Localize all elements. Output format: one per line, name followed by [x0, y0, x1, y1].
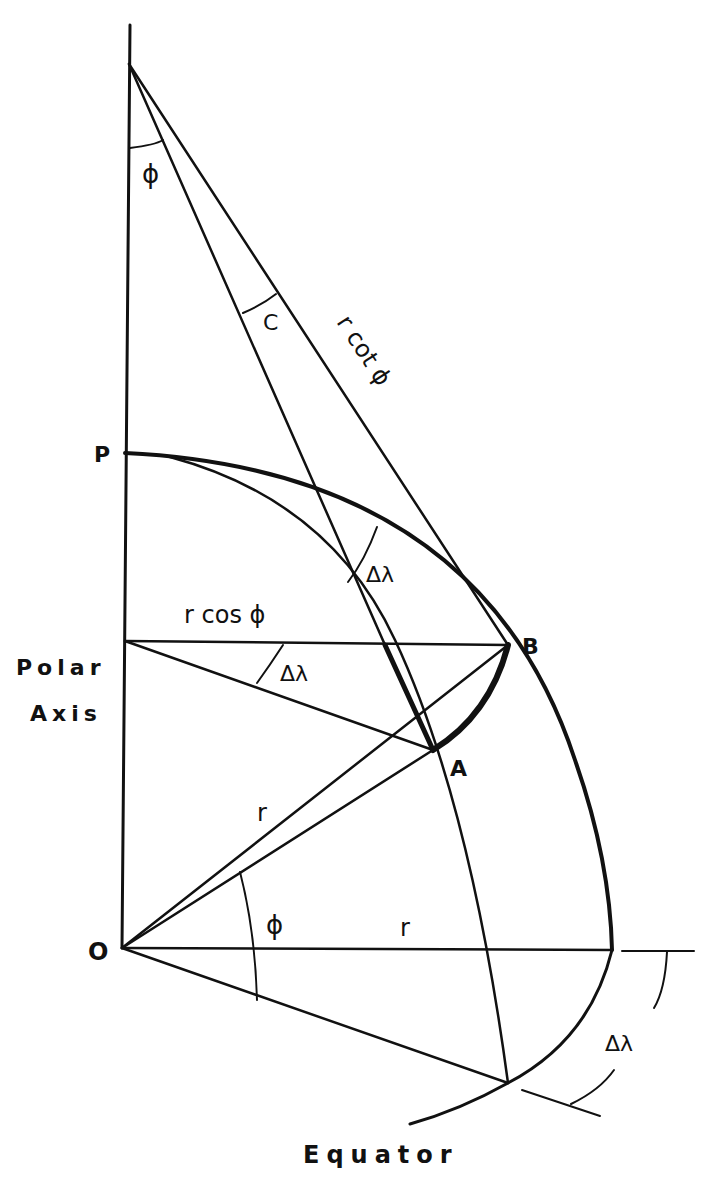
r-cot-phi-label: r cot ϕ — [331, 310, 397, 391]
delta-lambda-lower-arc-bottom — [571, 1070, 614, 1104]
equator-radius-horizontal — [122, 948, 612, 950]
equator-radius-lower — [122, 948, 508, 1083]
apex-to-a-line — [129, 64, 385, 645]
delta-lambda-lower-arc-top — [654, 952, 667, 1008]
polar-geometry-diagram: ϕ C r cot ϕ P Δλ r cos ϕ B Polar Δλ Axis… — [0, 0, 706, 1178]
c-angle-label: C — [263, 310, 278, 335]
axis-label: Axis — [30, 701, 102, 726]
polar-label: Polar — [16, 655, 105, 680]
point-p-label: P — [94, 442, 110, 467]
point-o-label: O — [88, 938, 108, 966]
phi-origin-label: ϕ — [266, 910, 283, 940]
polar-to-a-line — [125, 641, 433, 750]
r-horizontal-label: r — [400, 914, 410, 942]
phi-apex-arc — [130, 140, 163, 148]
r-cos-phi-label: r cos ϕ — [184, 601, 265, 629]
point-a-label: A — [450, 756, 467, 781]
delta-lambda-upper-label: Δλ — [366, 562, 394, 587]
r-cos-phi-line — [125, 641, 508, 645]
phi-origin-arc — [240, 872, 257, 1000]
equator-label: Equator — [303, 1141, 459, 1169]
polar-axis-line — [122, 25, 130, 948]
apex-to-b-line — [129, 64, 508, 645]
r-diagonal-label: r — [257, 799, 267, 827]
delta-lambda-middle-label: Δλ — [280, 661, 308, 686]
outer-meridian-arc — [125, 453, 612, 950]
phi-apex-label: ϕ — [142, 159, 159, 189]
radius-o-to-b — [122, 645, 508, 948]
delta-lambda-lower-label: Δλ — [605, 1031, 633, 1056]
arc-a-to-b — [433, 645, 508, 750]
point-b-label: B — [522, 634, 539, 659]
